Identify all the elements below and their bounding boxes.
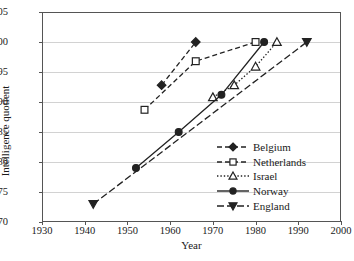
series-line xyxy=(145,42,256,110)
square-marker xyxy=(192,58,199,65)
square-marker xyxy=(141,106,148,113)
legend-sample xyxy=(216,155,250,169)
triangle-down-marker xyxy=(89,201,98,209)
circle-marker xyxy=(230,188,236,194)
chart-legend: BelgiumNetherlandsIsraelNorwayEngland xyxy=(216,140,324,213)
circle-marker xyxy=(175,129,182,136)
legend-label: Netherlands xyxy=(250,156,306,168)
diamond-marker xyxy=(229,143,237,151)
legend-item-belgium[interactable]: Belgium xyxy=(216,140,324,155)
legend-sample xyxy=(216,140,250,154)
legend-sample xyxy=(216,184,250,198)
x-axis-label: Year xyxy=(42,239,341,251)
legend-sample xyxy=(216,199,250,213)
legend-label: England xyxy=(250,200,290,212)
series-netherlands xyxy=(141,39,259,114)
square-marker xyxy=(252,39,259,46)
legend-item-norway[interactable]: Norway xyxy=(216,184,324,199)
triangle-up-marker xyxy=(273,38,282,46)
triangle-up-marker xyxy=(229,172,237,179)
iq-flynn-effect-chart: Intelligence quotient 707580859095100105… xyxy=(0,0,354,261)
series-line xyxy=(162,42,196,85)
circle-marker xyxy=(218,91,225,98)
data-series-layer xyxy=(0,0,354,261)
legend-label: Israel xyxy=(250,170,277,182)
triangle-up-marker xyxy=(251,62,260,70)
legend-label: Belgium xyxy=(250,141,291,153)
legend-label: Norway xyxy=(250,185,288,197)
square-marker xyxy=(230,159,236,165)
triangle-down-marker xyxy=(303,39,312,47)
legend-item-netherlands[interactable]: Netherlands xyxy=(216,155,324,170)
legend-item-england[interactable]: England xyxy=(216,198,324,213)
x-axis-label-text: Year xyxy=(181,239,201,251)
circle-marker xyxy=(261,39,268,46)
legend-item-israel[interactable]: Israel xyxy=(216,169,324,184)
legend-sample xyxy=(216,169,250,183)
